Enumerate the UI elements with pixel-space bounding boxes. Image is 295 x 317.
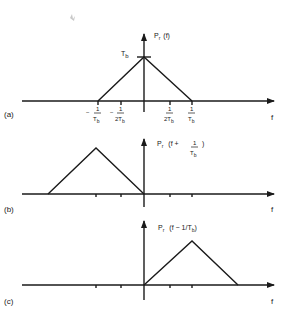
panel-b-labels: (b) f Pr(f + 1 Tb ) (4, 140, 274, 214)
svg-text:2Tb: 2Tb (115, 116, 125, 124)
spectrum-diagram: (a) f Pr(f) Tb − 1 Tb − 1 2Tb 1 2Tb 1 (0, 0, 295, 317)
panel-b (22, 139, 274, 207)
svg-text:Tb: Tb (93, 116, 100, 124)
panel-label-c: (c) (4, 297, 14, 306)
axis-label-f-a: f (271, 113, 274, 122)
triangle-a (98, 57, 192, 101)
function-label-c: Pr(f − 1/Tb) (158, 224, 197, 233)
tick-label-1-over-Tb: 1 Tb (188, 106, 195, 124)
panel-a (22, 34, 274, 112)
svg-text:−: − (86, 109, 90, 115)
svg-text:1: 1 (96, 106, 100, 112)
peak-label-a: Tb (121, 50, 129, 59)
axis-label-f-b: f (271, 205, 274, 214)
panel-a-labels: (a) f Pr(f) Tb − 1 Tb − 1 2Tb 1 2Tb 1 (4, 32, 274, 124)
panel-c-labels: (c) f Pr(f − 1/Tb) (4, 224, 274, 306)
triangle-c (144, 241, 238, 285)
tick-label-neg-1-over-Tb: − 1 Tb (86, 106, 101, 124)
panel-label-a: (a) (4, 110, 14, 119)
panel-label-b: (b) (4, 205, 14, 214)
tick-label-1-over-2Tb: 1 2Tb (164, 106, 174, 124)
triangle-b (48, 148, 144, 194)
svg-text:1: 1 (119, 106, 123, 112)
function-arg-den-b: Tb (190, 150, 197, 158)
function-arg-num-b: 1 (193, 140, 197, 146)
function-label-b: Pr(f + (157, 140, 179, 149)
svg-text:1: 1 (168, 106, 172, 112)
svg-text:2Tb: 2Tb (164, 116, 174, 124)
svg-text:1: 1 (190, 106, 194, 112)
function-arg-post-b: ) (202, 140, 204, 148)
svg-text:Tb: Tb (188, 116, 195, 124)
function-label-a: Pr(f) (154, 32, 170, 41)
smudge-mark (70, 14, 75, 21)
axis-label-f-c: f (271, 297, 274, 306)
panel-c (22, 221, 274, 300)
tick-label-neg-1-over-2Tb: − 1 2Tb (110, 106, 125, 124)
svg-text:−: − (110, 109, 114, 115)
